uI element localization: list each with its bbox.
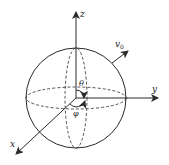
z-axis-label: z bbox=[79, 9, 85, 19]
diagram-canvas: z y x v0 θ φ bbox=[0, 0, 169, 165]
theta-arc bbox=[76, 90, 84, 98]
spherical-coordinates-diagram: z y x v0 θ φ bbox=[0, 0, 169, 165]
theta-label: θ bbox=[79, 79, 84, 88]
x-axis-label: x bbox=[10, 139, 15, 149]
velocity-label: v0 bbox=[115, 39, 124, 50]
velocity-vector bbox=[112, 51, 128, 63]
phi-label: φ bbox=[73, 109, 79, 118]
velocity-label-subscript: 0 bbox=[120, 43, 124, 50]
y-axis-label: y bbox=[151, 84, 158, 94]
